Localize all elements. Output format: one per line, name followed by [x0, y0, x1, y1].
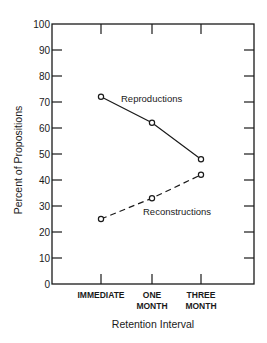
y-axis-title: Percent of Propositions	[12, 106, 24, 215]
data-series	[98, 94, 203, 221]
series-label-reconstructions: Reconstructions	[143, 206, 211, 217]
y-tick-label: 50	[39, 149, 51, 160]
y-tick-label: 60	[39, 123, 51, 134]
y-tick-label: 40	[39, 175, 51, 186]
y-tick-label: 90	[39, 45, 51, 56]
y-tick-label: 30	[39, 201, 51, 212]
data-point-marker	[98, 216, 103, 221]
y-tick-label: 0	[44, 279, 50, 290]
y-axis-ticks: 0102030405060708090100	[33, 19, 254, 290]
data-point-marker	[98, 94, 103, 99]
data-point-marker	[149, 196, 154, 201]
x-axis-title: Retention Interval	[112, 318, 194, 330]
plot-border	[52, 24, 254, 284]
line-chart: 0102030405060708090100 IMMEDIATEONEMONTH…	[0, 0, 267, 343]
x-axis-ticks: IMMEDIATEONEMONTHTHREEMONTH	[77, 24, 216, 311]
data-point-marker	[149, 120, 154, 125]
y-tick-label: 20	[39, 227, 51, 238]
plot-frame	[52, 24, 254, 284]
series-line-reproductions	[101, 97, 201, 159]
data-point-marker	[198, 157, 203, 162]
x-tick-label: IMMEDIATE	[77, 290, 124, 300]
data-point-marker	[198, 172, 203, 177]
y-tick-label: 10	[39, 253, 51, 264]
y-tick-label: 70	[39, 97, 51, 108]
y-tick-label: 100	[33, 19, 50, 30]
x-tick-label: THREE	[187, 290, 216, 300]
x-tick-label: ONE	[143, 290, 162, 300]
y-tick-label: 80	[39, 71, 51, 82]
x-tick-label: MONTH	[136, 301, 167, 311]
series-label-reproductions: Reproductions	[121, 93, 183, 104]
x-tick-label: MONTH	[185, 301, 216, 311]
